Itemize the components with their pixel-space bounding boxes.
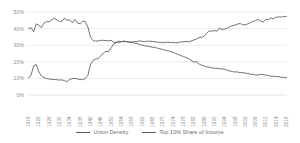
legend-swatch-top-10-share: [142, 132, 156, 133]
gridlines: [29, 12, 287, 95]
legend-label-union-density: Union Density: [93, 130, 128, 136]
y-axis-tick-label: 20%: [14, 59, 25, 65]
legend-item-top-10-share: Top 10% Share of Income: [142, 130, 223, 136]
legend-swatch-union-density: [76, 132, 90, 133]
chart-legend: Union Density Top 10% Share of Income: [0, 122, 300, 143]
data-series-lines: [29, 16, 287, 81]
y-axis-tick-label: 40%: [14, 26, 25, 32]
y-axis-tick-label: 0%: [17, 92, 25, 98]
legend-item-union-density: Union Density: [76, 130, 128, 136]
series-line-top-10-share: [29, 16, 287, 43]
y-axis-tick-labels: 0%10%20%30%40%50%: [14, 9, 25, 98]
y-axis-tick-label: 50%: [14, 9, 25, 15]
legend-label-top-10-share: Top 10% Share of Income: [159, 130, 223, 136]
series-line-union-density: [29, 41, 287, 82]
y-axis-tick-label: 30%: [14, 42, 25, 48]
y-axis-tick-label: 10%: [14, 75, 25, 81]
chart-container: 0%10%20%30%40%50% 1918192219261930193419…: [0, 0, 300, 143]
